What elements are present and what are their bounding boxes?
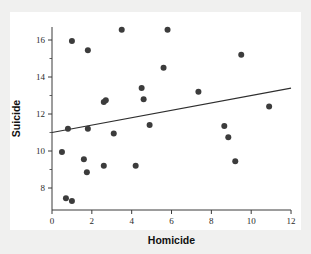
data-point xyxy=(238,52,244,58)
data-point xyxy=(103,97,109,103)
figure-container: 810121416024681012HomicideSuicide xyxy=(0,0,311,254)
axes-group xyxy=(48,27,291,214)
data-point xyxy=(165,27,171,33)
data-point xyxy=(69,198,75,204)
x-tick-label: 4 xyxy=(129,216,134,226)
data-point xyxy=(69,38,75,44)
y-tick-label: 8 xyxy=(41,183,46,193)
x-tick-label: 10 xyxy=(247,216,257,226)
y-tick-label: 16 xyxy=(36,35,46,45)
chart-svg: 810121416024681012HomicideSuicide xyxy=(0,0,311,254)
x-tick-label: 8 xyxy=(209,216,214,226)
x-tick-label: 6 xyxy=(169,216,174,226)
x-tick-label: 12 xyxy=(287,216,296,226)
x-tick-label: 2 xyxy=(90,216,95,226)
data-point xyxy=(85,126,91,132)
data-point xyxy=(141,96,147,102)
data-point xyxy=(195,89,201,95)
data-point xyxy=(225,134,231,140)
data-point xyxy=(266,104,272,110)
data-point xyxy=(63,195,69,201)
data-point xyxy=(139,85,145,91)
data-point xyxy=(232,158,238,164)
x-axis-title: Homicide xyxy=(148,234,195,246)
axis-labels-group: 810121416024681012HomicideSuicide xyxy=(10,35,296,246)
y-tick-label: 12 xyxy=(36,109,45,119)
data-point xyxy=(84,169,90,175)
data-point xyxy=(111,130,117,136)
scatter-plot: 810121416024681012HomicideSuicide xyxy=(0,0,311,254)
data-point xyxy=(119,27,125,33)
data-point xyxy=(161,65,167,71)
data-point xyxy=(85,47,91,53)
y-axis-title: Suicide xyxy=(10,100,22,138)
data-point xyxy=(81,156,87,162)
y-tick-label: 14 xyxy=(36,72,46,82)
x-tick-label: 0 xyxy=(50,216,55,226)
data-points-group xyxy=(59,27,272,204)
data-point xyxy=(221,123,227,129)
data-point xyxy=(101,163,107,169)
data-point xyxy=(133,163,139,169)
data-point xyxy=(65,126,71,132)
y-tick-label: 10 xyxy=(36,146,46,156)
data-point xyxy=(59,149,65,155)
data-point xyxy=(147,122,153,128)
